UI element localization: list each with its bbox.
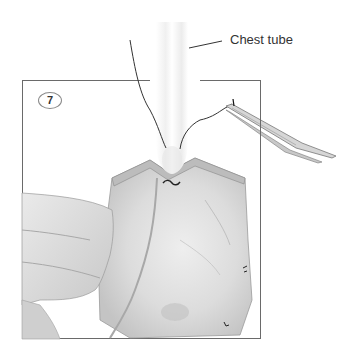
- step-number-badge: 7: [38, 92, 62, 109]
- chest-tube-label: Chest tube: [230, 32, 293, 47]
- label-leader-line: [189, 41, 222, 48]
- needle-holder[interactable]: [226, 99, 336, 163]
- surgical-illustration: [0, 0, 362, 364]
